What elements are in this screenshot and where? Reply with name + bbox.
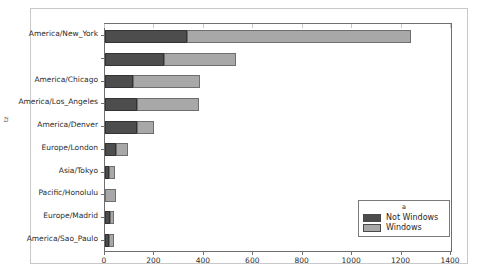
y-axis-label: America/Denver [37,120,98,129]
bar-segment-windows[interactable] [137,121,154,134]
bar-segment-windows[interactable] [116,143,128,156]
x-axis-tick-top [450,24,451,28]
y-axis-label: Asia/Tokyo [59,166,98,175]
x-axis-tick [252,251,253,255]
bar-segment-windows[interactable] [105,189,116,202]
x-axis-tick-top [104,24,105,28]
legend-swatch-not-windows [363,214,381,222]
y-axis-tick [101,35,105,36]
x-axis-label: 400 [196,256,210,265]
legend-title: a [363,203,445,211]
chart-legend[interactable]: a Not Windows Windows [358,200,450,237]
x-axis-tick [450,251,451,255]
y-axis-tick [101,149,105,150]
bar-segment-windows[interactable] [110,211,114,224]
y-axis-tick [101,194,105,195]
x-axis-tick-top [252,24,253,28]
x-axis-label: 1200 [391,256,410,265]
x-axis-tick [153,251,154,255]
bar-segment-windows[interactable] [187,30,412,43]
y-axis-label: America/Los_Angeles [18,97,98,106]
bar-segment-not-windows[interactable] [105,98,137,111]
y-axis-label: America/New_York [29,29,98,38]
x-axis-label: 600 [245,256,259,265]
y-axis-label: Europe/Madrid [43,211,98,220]
y-axis-tick [101,240,105,241]
x-axis-label: 200 [146,256,160,265]
x-axis-label: 0 [102,256,107,265]
y-axis-tick [101,126,105,127]
legend-swatch-windows [363,224,381,232]
y-axis-tick [101,217,105,218]
y-axis-tick [101,58,105,59]
x-axis-label: 1400 [440,256,459,265]
legend-label-not-windows: Not Windows [386,213,438,222]
x-axis-label: 800 [295,256,309,265]
x-axis-label: 1000 [342,256,361,265]
bar-segment-windows[interactable] [109,234,113,247]
x-axis-tick-top [401,24,402,28]
y-axis-label: Pacific/Honolulu [38,188,98,197]
bar-segment-not-windows[interactable] [105,53,164,66]
legend-item-not-windows[interactable]: Not Windows [363,213,445,222]
x-axis-tick [351,251,352,255]
legend-item-windows[interactable]: Windows [363,223,445,232]
bar-segment-windows[interactable] [137,98,199,111]
x-axis-tick-top [351,24,352,28]
x-axis-tick-top [302,24,303,28]
y-axis-tick [101,172,105,173]
y-axis-title: tz [2,116,9,122]
chart-screenshot: tz America/New_YorkAmerica/ChicagoAmeric… [0,0,477,280]
x-axis-tick-top [153,24,154,28]
x-axis-tick-top [203,24,204,28]
x-axis-tick [104,251,105,255]
y-axis-tick [101,103,105,104]
bar-segment-not-windows[interactable] [105,143,116,156]
bar-segment-windows[interactable] [133,75,200,88]
y-axis-label: Europe/London [42,143,98,152]
x-axis-tick [401,251,402,255]
bar-segment-windows[interactable] [109,166,115,179]
y-axis-label: America/Chicago [34,75,98,84]
bar-segment-not-windows[interactable] [105,30,187,43]
y-axis-tick [101,81,105,82]
legend-label-windows: Windows [386,223,422,232]
bar-segment-not-windows[interactable] [105,75,133,88]
bar-segment-not-windows[interactable] [105,121,137,134]
y-axis-label: America/Sao_Paulo [27,234,98,243]
bar-segment-windows[interactable] [164,53,236,66]
x-axis-tick [203,251,204,255]
x-axis-tick [302,251,303,255]
